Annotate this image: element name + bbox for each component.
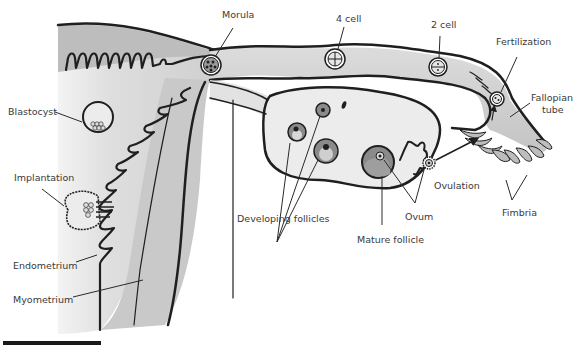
label-fimbria: Fimbria — [502, 207, 537, 218]
two-cell-embryo — [429, 58, 447, 76]
label-ovum: Ovum — [405, 211, 433, 222]
label-morula: Morula — [222, 9, 254, 20]
label-implantation: Implantation — [14, 172, 74, 183]
fertilization-zygote — [490, 92, 504, 106]
released-ovum — [423, 157, 435, 169]
ovary-ligament — [210, 80, 268, 118]
caption-bar — [3, 341, 101, 345]
label-fertilization: Fertilization — [496, 36, 551, 47]
blastocyst — [83, 102, 113, 132]
reproductive-tract-diagram: Morula 4 cell 2 cell Fertilization Fallo… — [0, 0, 579, 345]
label-developing-follicles: Developing follicles — [237, 213, 330, 224]
morula — [201, 55, 221, 75]
uterus — [58, 23, 215, 334]
label-ovulation: Ovulation — [434, 180, 480, 191]
label-blastocyst: Blastocyst — [8, 106, 57, 117]
label-endometrium: Endometrium — [13, 260, 78, 271]
label-four-cell: 4 cell — [336, 13, 361, 24]
label-myometrium: Myometrium — [13, 294, 73, 305]
label-two-cell: 2 cell — [431, 19, 456, 30]
four-cell-embryo — [325, 49, 345, 69]
label-fallopian-tube-2: tube — [542, 104, 564, 115]
label-mature-follicle: Mature follicle — [357, 234, 424, 245]
label-fallopian-tube-1: Fallopian — [531, 92, 573, 103]
